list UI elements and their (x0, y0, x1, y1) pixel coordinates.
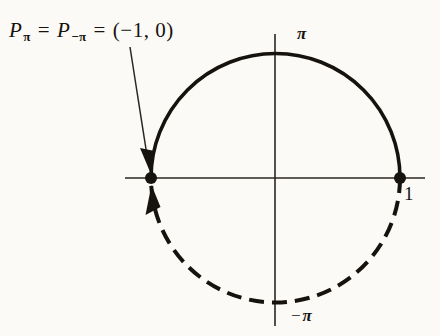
negative-sign: − (291, 306, 303, 325)
annotation-arrow-shaft (130, 47, 148, 162)
label-coordinates: (−1, 0) (113, 18, 174, 42)
pi-glyph: π (303, 306, 312, 325)
point-marker-minus-one (145, 172, 157, 184)
label-equals-first: = (31, 18, 57, 42)
arc-direction-arrowhead (146, 185, 161, 215)
point-equation-label: Pπ=P−π=(−1, 0) (9, 18, 174, 45)
one-label: 1 (404, 183, 414, 205)
label-p-second: P (57, 18, 70, 42)
unit-circle-figure: Pπ=P−π=(−1, 0) π −π 1 (0, 0, 440, 336)
negative-pi-bottom-label: −π (291, 306, 312, 326)
label-subscript-pi: π (22, 29, 31, 44)
label-subscript-negative-pi: −π (70, 29, 86, 44)
label-equals-second: = (87, 18, 113, 42)
circle-diagram-canvas (0, 0, 440, 336)
label-p-first: P (9, 18, 22, 42)
pi-top-label: π (297, 24, 306, 44)
